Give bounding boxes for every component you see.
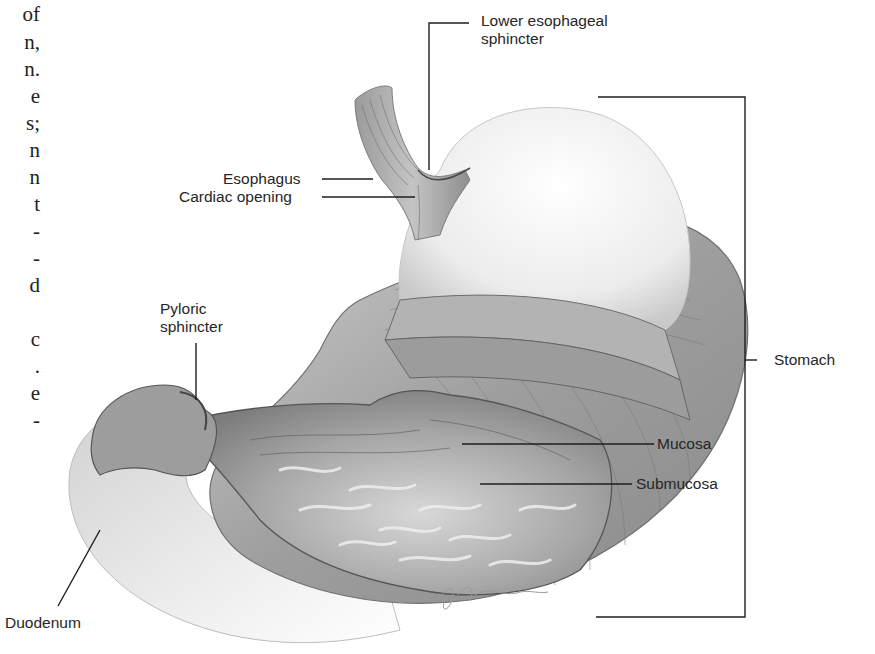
stomach-illustration xyxy=(0,0,875,654)
label-stomach: Stomach xyxy=(774,351,835,369)
label-line: sphincter xyxy=(160,318,223,336)
label-esophagus: Esophagus xyxy=(223,170,301,188)
label-lower-esophageal-sphincter: Lower esophageal sphincter xyxy=(481,12,608,48)
label-duodenum: Duodenum xyxy=(5,614,81,632)
label-line: Pyloric xyxy=(160,300,223,318)
label-submucosa: Submucosa xyxy=(636,475,718,493)
label-line: sphincter xyxy=(481,30,608,48)
label-mucosa: Mucosa xyxy=(657,435,711,453)
label-pyloric-sphincter: Pyloric sphincter xyxy=(160,300,223,336)
leader-duodenum xyxy=(58,530,100,606)
label-cardiac-opening: Cardiac opening xyxy=(179,188,292,206)
label-line: Lower esophageal xyxy=(481,12,608,30)
diagram-page: of n, n. e s; n n t - - d c . e - xyxy=(0,0,875,654)
